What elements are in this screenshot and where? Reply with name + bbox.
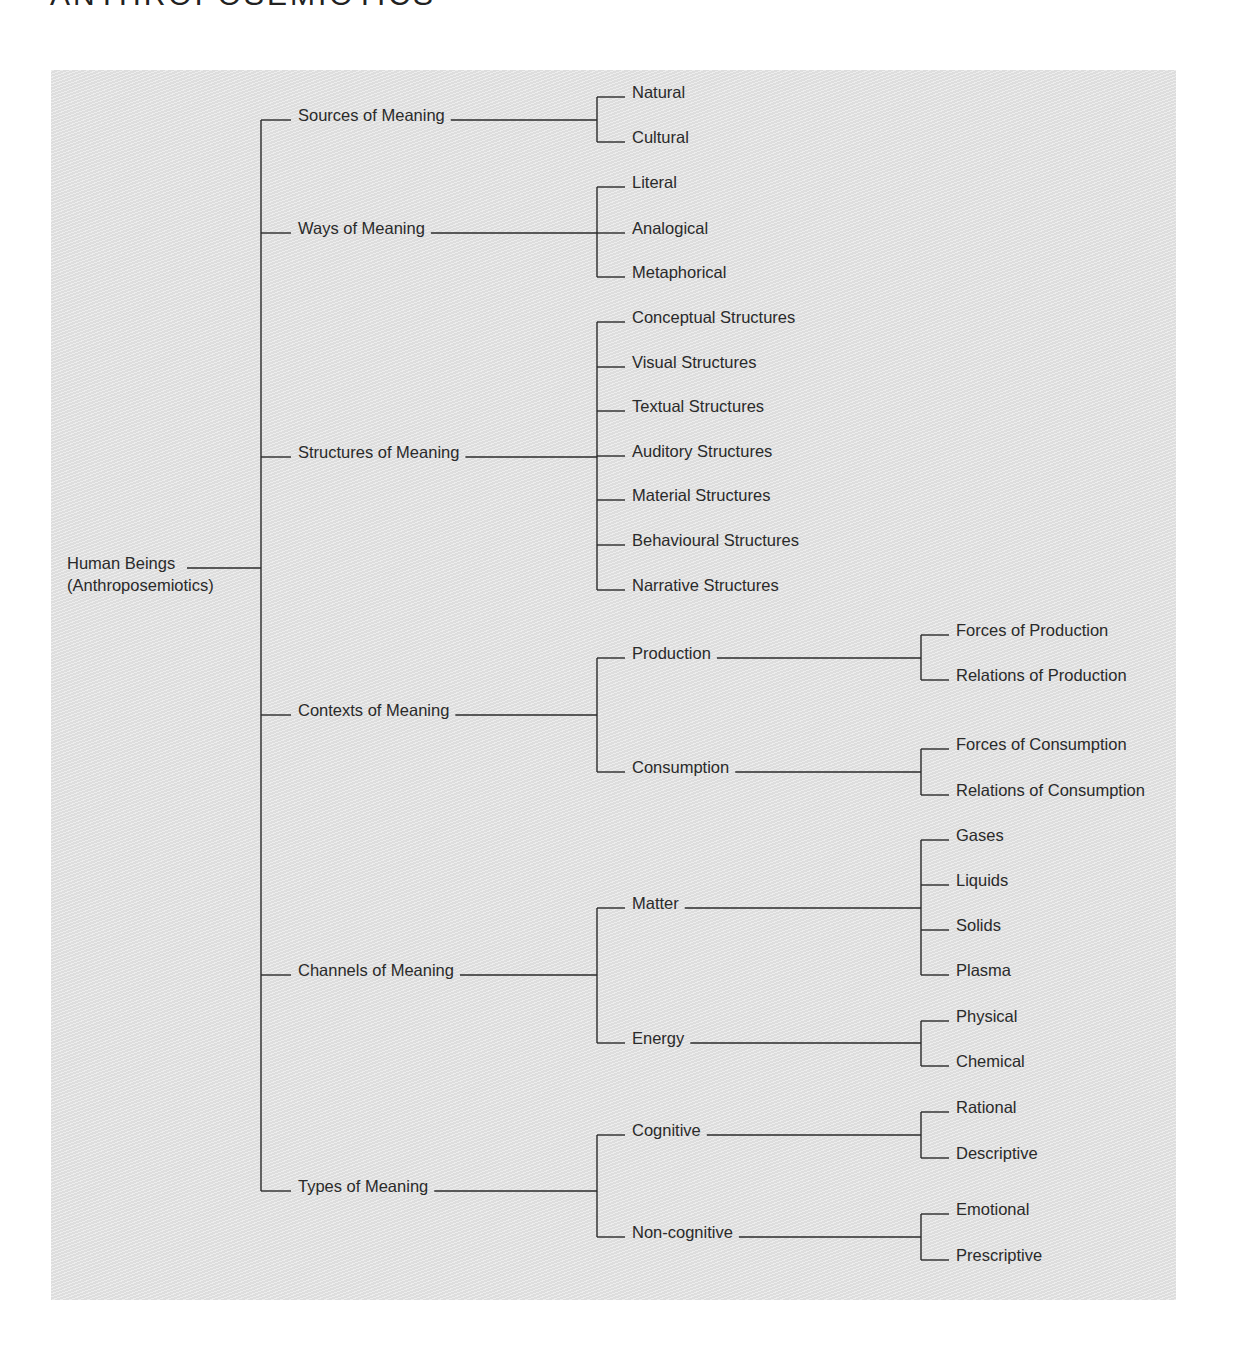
leaf-label: Textual Structures — [632, 396, 764, 416]
leaf-label: Material Structures — [632, 485, 770, 505]
category-label: Ways of Meaning — [298, 218, 425, 238]
leaf-label: Natural — [632, 82, 685, 102]
leaf-label: Physical — [956, 1006, 1017, 1026]
leaf-label: Literal — [632, 172, 677, 192]
leaf-label: Relations of Production — [956, 665, 1127, 685]
category-label: Types of Meaning — [298, 1176, 428, 1196]
subcategory-label: Production — [632, 643, 711, 663]
leaf-label: Rational — [956, 1097, 1017, 1117]
leaf-label: Auditory Structures — [632, 441, 772, 461]
leaf-label: Visual Structures — [632, 352, 756, 372]
leaf-label: Solids — [956, 915, 1001, 935]
leaf-label: Gases — [956, 825, 1004, 845]
subcategory-label: Non-cognitive — [632, 1222, 733, 1242]
subcategory-label: Consumption — [632, 757, 729, 777]
leaf-label: Descriptive — [956, 1143, 1038, 1163]
subcategory-label: Cognitive — [632, 1120, 701, 1140]
category-label: Contexts of Meaning — [298, 700, 449, 720]
leaf-label: Forces of Consumption — [956, 734, 1127, 754]
leaf-label: Narrative Structures — [632, 575, 779, 595]
leaf-label: Analogical — [632, 218, 708, 238]
leaf-label: Relations of Consumption — [956, 780, 1145, 800]
leaf-label: Prescriptive — [956, 1245, 1042, 1265]
leaf-label: Behavioural Structures — [632, 530, 799, 550]
category-label: Channels of Meaning — [298, 960, 454, 980]
leaf-label: Liquids — [956, 870, 1008, 890]
leaf-label: Plasma — [956, 960, 1011, 980]
leaf-label: Chemical — [956, 1051, 1025, 1071]
category-label: Sources of Meaning — [298, 105, 445, 125]
leaf-label: Emotional — [956, 1199, 1029, 1219]
subcategory-label: Matter — [632, 893, 679, 913]
leaf-label: Cultural — [632, 127, 689, 147]
leaf-label: Metaphorical — [632, 262, 726, 282]
leaf-label: Forces of Production — [956, 620, 1108, 640]
category-label: Structures of Meaning — [298, 442, 459, 462]
leaf-label: Conceptual Structures — [632, 307, 795, 327]
subcategory-label: Energy — [632, 1028, 684, 1048]
